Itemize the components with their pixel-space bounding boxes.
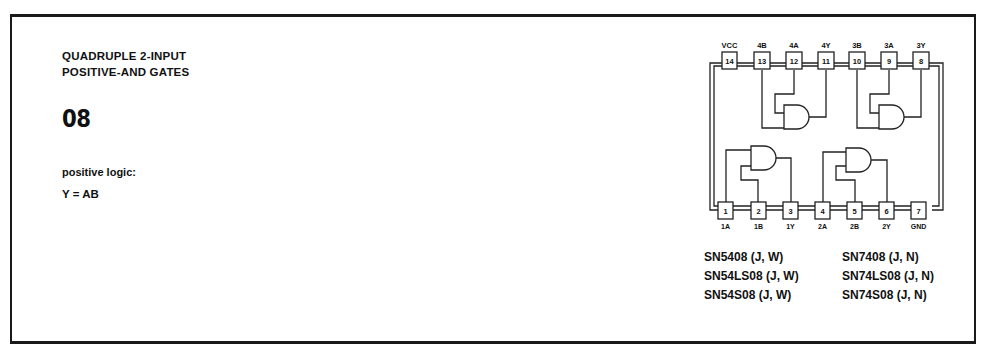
pin-9-number: 9 (887, 57, 891, 66)
pin-1-label: 1A (721, 223, 730, 230)
pin-1-number: 1 (723, 207, 727, 216)
pin-7-number: 7 (916, 207, 920, 216)
pin-8-label: 3Y (916, 41, 925, 50)
package-sn74s08: SN74S08 (J, N) (842, 286, 934, 305)
package-sn54s08: SN54S08 (J, W) (704, 286, 799, 305)
pin-3-label: 1Y (786, 223, 795, 230)
pin-14-number: 14 (725, 57, 734, 66)
package-sn5408: SN5408 (J, W) (704, 248, 799, 267)
commercial-packages: SN7408 (J, N) SN74LS08 (J, N) SN74S08 (J… (842, 248, 934, 305)
pin-10-label: 3B (852, 41, 862, 50)
pin-11-label: 4Y (821, 41, 830, 50)
pinout-diagram: 14 13 12 11 10 9 8 VCC 4B 4A 4Y 3B 3A 3Y… (0, 0, 986, 355)
pin-8-number: 8 (919, 57, 923, 66)
pin-5-label: 2B (850, 223, 859, 230)
pin-12-label: 4A (789, 41, 799, 50)
pin-12-number: 12 (790, 57, 798, 66)
pin-14-label: VCC (722, 41, 738, 50)
package-sn7408: SN7408 (J, N) (842, 248, 934, 267)
pin-3-number: 3 (788, 207, 792, 216)
pin-7-label: GND (911, 223, 927, 230)
pin-2-number: 2 (756, 207, 760, 216)
pin-6-label: 2Y (882, 223, 891, 230)
package-sn54ls08: SN54LS08 (J, W) (704, 267, 799, 286)
pin-11-number: 11 (822, 57, 830, 66)
pin-2-label: 1B (754, 223, 763, 230)
package-sn74ls08: SN74LS08 (J, N) (842, 267, 934, 286)
pin-4-label: 2A (818, 223, 827, 230)
pin-13-label: 4B (757, 41, 767, 50)
pin-10-number: 10 (853, 57, 861, 66)
pin-6-number: 6 (884, 207, 888, 216)
pin-9-label: 3A (884, 41, 894, 50)
military-packages: SN5408 (J, W) SN54LS08 (J, W) SN54S08 (J… (704, 248, 799, 305)
pin-5-number: 5 (852, 207, 856, 216)
pin-13-number: 13 (758, 57, 766, 66)
